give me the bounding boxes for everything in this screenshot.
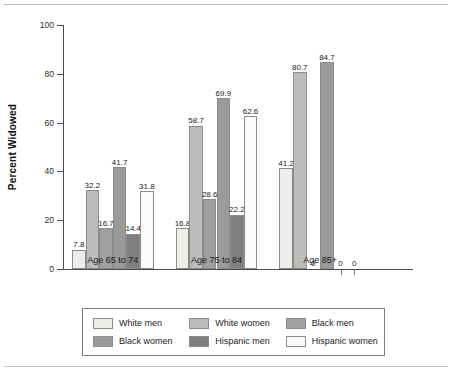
y-tick-label: 60 [45,118,54,128]
page-rule-bottom [4,366,448,367]
bar-value-label: 32.2 [85,181,101,190]
x-axis-group-label: Age 75 to 84 [191,255,242,265]
bar-value-label: 16.7 [98,219,114,228]
legend-swatch-icon [286,318,306,329]
x-tick-mark [341,270,342,275]
bars-layer: 7.832.216.741.714.431.816.858.728.669.92… [64,25,413,270]
y-tick-mark [57,25,63,26]
bar: 69.9 [217,98,231,269]
bar: 31.8 [140,191,154,269]
y-axis-title: Percent Widowed [7,104,18,190]
y-tick-mark [57,220,63,221]
bar: 16.8 [176,228,190,269]
bar-value-label: 14.4 [125,224,141,233]
bar-value-label: 0 [352,259,356,268]
y-tick-label: 80 [45,69,54,79]
bar-value-label: 31.8 [139,182,155,191]
bar: 58.7 [189,126,203,269]
bar: 62.6 [244,116,258,269]
legend-swatch-icon [286,336,306,347]
bar-value-label: 7.8 [73,240,84,249]
legend-swatch-icon [189,318,209,329]
bar: 41.7 [113,167,127,269]
y-tick-mark [57,269,63,270]
legend-label: Black women [119,336,173,346]
bar: 7.8 [72,250,86,269]
bar-value-label: 28.6 [202,190,218,199]
legend-label: White women [215,318,270,328]
legend-item[interactable]: White women [185,318,281,329]
legend-item[interactable]: White men [89,318,185,329]
y-tick-label: 20 [45,215,54,225]
bar-value-label: 41.2 [278,159,294,168]
plot-area: Percent Widowed 020406080100 7.832.216.7… [0,0,452,300]
legend-label: Hispanic women [312,336,378,346]
bar: 84.7 [320,62,334,269]
legend-label: Black men [312,318,354,328]
bar-value-label: 22.2 [229,205,245,214]
legend-item[interactable]: Black women [89,336,185,347]
legend-item[interactable]: Hispanic men [185,336,281,347]
figure-chart-percent-widowed: Percent Widowed 020406080100 7.832.216.7… [0,0,452,376]
y-tick-mark [57,123,63,124]
legend-swatch-icon [93,318,113,329]
bar-value-label: 62.6 [243,107,259,116]
legend-label: White men [119,318,162,328]
legend-swatch-icon [189,336,209,347]
bar-value-label: 69.9 [216,89,232,98]
x-axis-group-label: Age 85+ [303,255,337,265]
bar-value-label: 58.7 [188,116,204,125]
legend-item[interactable]: Hispanic women [282,336,378,347]
bar-value-label: 0 [338,259,342,268]
bar: 41.2 [279,168,293,269]
y-tick-label: 40 [45,166,54,176]
y-tick-mark [57,171,63,172]
legend-swatch-icon [93,336,113,347]
x-tick-mark [354,270,355,275]
legend-label: Hispanic men [215,336,270,346]
bar: 80.7 [293,72,307,269]
bar-value-label: 84.7 [319,53,335,62]
axes: 020406080100 7.832.216.741.714.431.816.8… [63,25,413,270]
bar-value-label: 16.8 [175,219,191,228]
bar-value-label: 80.7 [292,63,308,72]
x-axis-group-label: Age 65 to 74 [87,255,138,265]
y-tick-mark [57,74,63,75]
y-tick-label: 0 [49,264,54,274]
legend-item[interactable]: Black men [282,318,378,329]
y-tick-label: 100 [40,20,54,30]
bar-value-label: 41.7 [112,158,128,167]
chart-legend: White menWhite womenBlack menBlack women… [82,308,385,356]
